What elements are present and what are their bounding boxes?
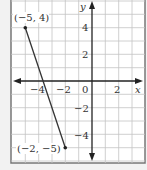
y-tick-label: −4 (74, 130, 89, 141)
y-axis-label: y (79, 1, 86, 12)
y-tick-label: −2 (74, 103, 89, 114)
x-tick-label: −4 (30, 84, 45, 95)
y-tick-label: 2 (82, 49, 88, 60)
point-label-b: (−2, −5) (17, 143, 61, 154)
x-tick-label: −2 (56, 84, 71, 95)
x-tick-label: 2 (114, 84, 120, 95)
y-tick-label: 4 (82, 22, 88, 33)
x-tick-label: 0 (82, 84, 88, 95)
x-axis-label: x (135, 84, 141, 95)
endpoint-a (24, 26, 28, 30)
endpoint-b (64, 146, 68, 150)
coordinate-plane: y x −4 −2 0 2 4 2 −2 −4 (−5, 4) (−2, −5) (0, 0, 147, 170)
point-label-a: (−5, 4) (14, 12, 49, 23)
